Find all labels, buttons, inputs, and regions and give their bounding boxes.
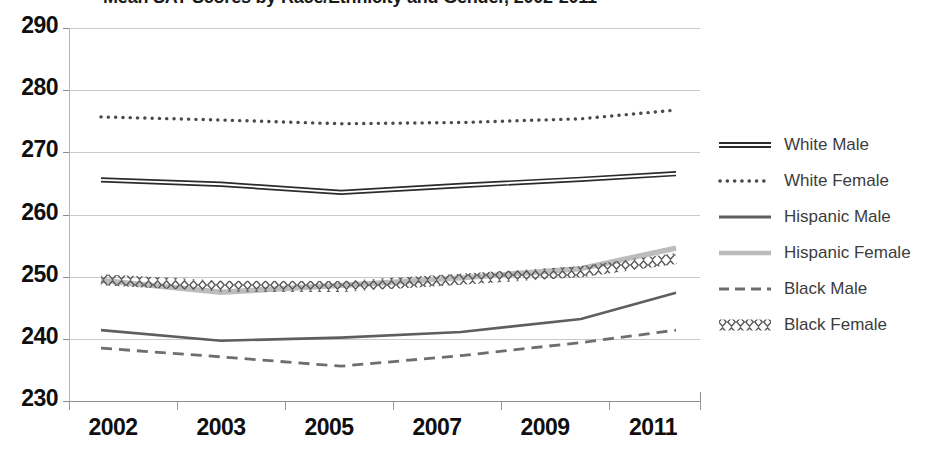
legend-line-icon	[718, 137, 772, 153]
legend-item-label: White Male	[784, 128, 869, 162]
legend-swatch-icon	[718, 209, 772, 225]
legend-swatch-icon	[718, 245, 772, 261]
legend-swatch-icon	[718, 137, 772, 153]
chart-legend: White MaleWhite FemaleHispanic MaleHispa…	[718, 128, 934, 344]
legend-line-icon	[718, 281, 772, 297]
series-line-white-male-lower	[101, 175, 676, 194]
legend-line-icon	[718, 317, 772, 333]
legend-swatch-icon	[718, 173, 772, 189]
legend-item-label: White Female	[784, 164, 889, 198]
legend-item-white-female[interactable]: White Female	[718, 164, 934, 200]
legend-swatch-icon	[718, 281, 772, 297]
legend-item-hispanic-male[interactable]: Hispanic Male	[718, 200, 934, 236]
series-line-hispanic-male	[101, 293, 676, 341]
legend-item-label: Hispanic Female	[784, 236, 911, 270]
legend-item-label: Black Male	[784, 272, 867, 306]
line-chart: Mean SAT Scores by Race/Ethnicity and Ge…	[0, 0, 934, 462]
legend-item-label: Hispanic Male	[784, 200, 891, 234]
legend-line-icon	[718, 209, 772, 225]
legend-item-black-female[interactable]: Black Female	[718, 308, 934, 344]
series-line-black-female	[101, 259, 676, 287]
legend-line-icon	[718, 245, 772, 261]
series-line-white-female	[101, 110, 676, 124]
legend-item-label: Black Female	[784, 308, 887, 342]
legend-item-white-male[interactable]: White Male	[718, 128, 934, 164]
legend-swatch-icon	[718, 317, 772, 333]
legend-line-icon	[718, 173, 772, 189]
legend-item-hispanic-female[interactable]: Hispanic Female	[718, 236, 934, 272]
legend-item-black-male[interactable]: Black Male	[718, 272, 934, 308]
